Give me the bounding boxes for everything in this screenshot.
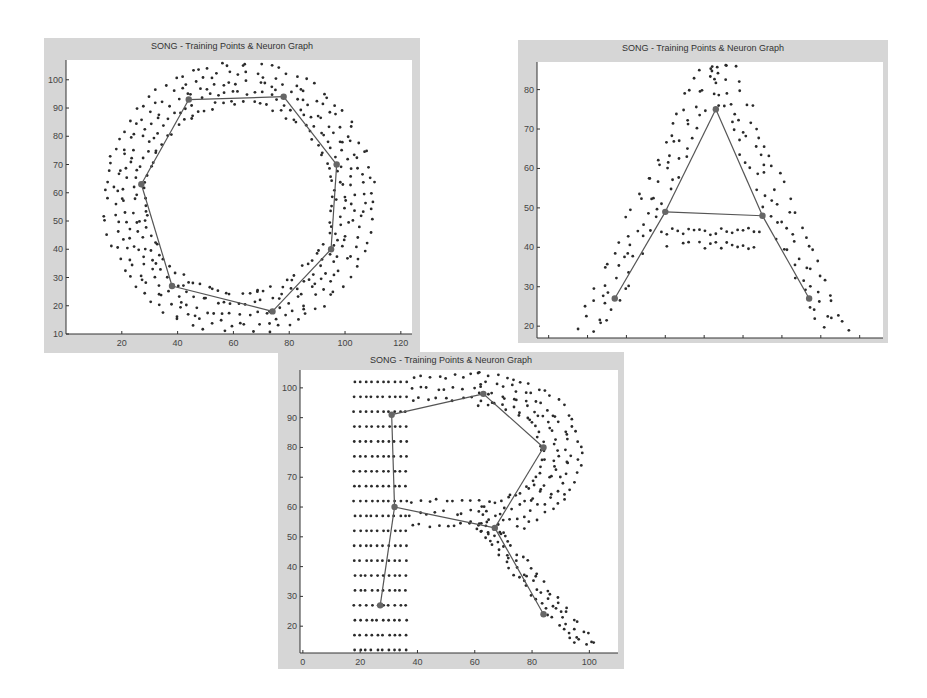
svg-text:60: 60 bbox=[470, 657, 480, 667]
svg-text:0: 0 bbox=[300, 657, 305, 667]
svg-text:30: 30 bbox=[287, 591, 297, 601]
svg-text:90: 90 bbox=[53, 103, 63, 113]
svg-text:100: 100 bbox=[282, 383, 297, 393]
svg-text:70: 70 bbox=[287, 472, 297, 482]
svg-text:70: 70 bbox=[53, 160, 63, 170]
svg-text:40: 40 bbox=[53, 244, 63, 254]
svg-text:60: 60 bbox=[777, 342, 787, 343]
svg-text:10: 10 bbox=[583, 342, 593, 343]
svg-text:50: 50 bbox=[738, 342, 748, 343]
svg-text:120: 120 bbox=[393, 338, 408, 348]
figure-letter-o: SONG - Training Points & Neuron Graph 20… bbox=[44, 38, 420, 353]
svg-text:80: 80 bbox=[53, 131, 63, 141]
svg-text:30: 30 bbox=[53, 273, 63, 283]
svg-text:40: 40 bbox=[699, 342, 709, 343]
svg-text:40: 40 bbox=[173, 338, 183, 348]
svg-text:50: 50 bbox=[287, 532, 297, 542]
svg-text:100: 100 bbox=[338, 338, 353, 348]
svg-text:10: 10 bbox=[53, 329, 63, 339]
svg-text:20: 20 bbox=[287, 621, 297, 631]
scatter-plot-r: 0204060801002030405060708090100 bbox=[278, 352, 624, 669]
svg-text:20: 20 bbox=[355, 657, 365, 667]
svg-text:80: 80 bbox=[527, 657, 537, 667]
figure-letter-a: SONG - Training Points & Neuron Graph 01… bbox=[518, 40, 888, 343]
svg-text:0: 0 bbox=[546, 342, 551, 343]
svg-text:50: 50 bbox=[524, 203, 534, 213]
scatter-plot-a: 0102030405060708020304050607080 bbox=[518, 40, 888, 343]
svg-text:20: 20 bbox=[524, 321, 534, 331]
svg-text:60: 60 bbox=[228, 338, 238, 348]
svg-text:20: 20 bbox=[53, 301, 63, 311]
svg-text:60: 60 bbox=[287, 502, 297, 512]
svg-text:100: 100 bbox=[582, 657, 597, 667]
svg-text:40: 40 bbox=[287, 562, 297, 572]
svg-text:70: 70 bbox=[524, 124, 534, 134]
scatter-plot-o: 20406080100120102030405060708090100 bbox=[44, 38, 420, 353]
svg-text:80: 80 bbox=[287, 442, 297, 452]
svg-text:80: 80 bbox=[855, 342, 865, 343]
figure-letter-r: SONG - Training Points & Neuron Graph 02… bbox=[278, 352, 624, 669]
svg-text:20: 20 bbox=[621, 342, 631, 343]
svg-text:100: 100 bbox=[48, 75, 63, 85]
svg-text:40: 40 bbox=[524, 242, 534, 252]
svg-text:60: 60 bbox=[524, 163, 534, 173]
svg-text:30: 30 bbox=[524, 282, 534, 292]
svg-text:50: 50 bbox=[53, 216, 63, 226]
svg-text:80: 80 bbox=[284, 338, 294, 348]
svg-text:20: 20 bbox=[117, 338, 127, 348]
svg-text:40: 40 bbox=[412, 657, 422, 667]
svg-text:30: 30 bbox=[660, 342, 670, 343]
svg-text:70: 70 bbox=[816, 342, 826, 343]
svg-text:60: 60 bbox=[53, 188, 63, 198]
svg-text:90: 90 bbox=[287, 413, 297, 423]
svg-text:80: 80 bbox=[524, 85, 534, 95]
